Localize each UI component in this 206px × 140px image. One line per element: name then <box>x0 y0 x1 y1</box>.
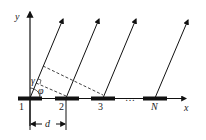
array-element-2 <box>55 97 79 101</box>
element-label-n: N <box>150 101 159 112</box>
element-label-3: 3 <box>98 101 103 112</box>
spacing-label-d: d <box>45 118 51 129</box>
x-axis-label: x <box>183 102 189 113</box>
beam-arrow-3 <box>103 19 136 98</box>
array-diagram: y x … 1 2 3 N γ φ d <box>0 0 206 140</box>
element-label-2: 2 <box>59 101 64 112</box>
ellipsis: … <box>125 92 135 103</box>
element-label-1: 1 <box>19 101 24 112</box>
beam-arrow-n <box>155 20 188 98</box>
angle-phi-label: φ <box>38 85 44 96</box>
right-angle-marker <box>38 79 41 84</box>
y-axis-label: y <box>14 11 20 22</box>
beam-arrow-2 <box>66 19 99 98</box>
beam-arrow-1 <box>30 19 63 98</box>
